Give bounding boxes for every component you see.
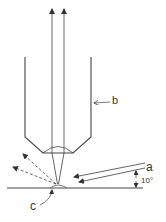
reflected-beams-up: [52, 9, 64, 184]
label-angle: 10°: [141, 176, 153, 185]
label-c: c: [30, 199, 36, 213]
c-pointer-arrow: [40, 190, 52, 205]
objective-tube: [25, 57, 91, 153]
scattered-dashed-beams: [13, 154, 56, 184]
incident-beams-a: [74, 163, 145, 182]
diagram-canvas: b a 10° c: [0, 0, 166, 222]
b-pointer-arrow: [94, 102, 110, 103]
label-b: b: [112, 94, 118, 106]
label-a: a: [146, 160, 153, 174]
